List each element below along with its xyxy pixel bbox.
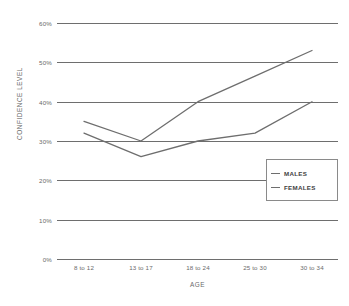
legend-item-males[interactable]: MALES [271, 166, 337, 180]
x-tick-label: 18 to 24 [168, 264, 228, 271]
x-axis-title: AGE [57, 281, 338, 288]
line-chart: 60%50%40%30%20%10%0% CONFIDENCE LEVEL 8 … [0, 0, 349, 306]
x-tick-label: 25 to 30 [225, 264, 285, 271]
y-tick-label: 60% [12, 20, 52, 27]
x-tick-label: 30 to 34 [282, 264, 342, 271]
y-tick-label: 20% [12, 177, 52, 184]
legend-swatch-females-icon [271, 187, 280, 188]
legend-swatch-males-icon [271, 173, 280, 174]
legend-label-females: FEMALES [284, 184, 316, 191]
series-line-males [84, 51, 312, 142]
y-tick-label: 10% [12, 216, 52, 223]
chart-series-layer [57, 23, 338, 259]
chart-legend[interactable]: MALES FEMALES [266, 159, 338, 201]
x-tick-label: 8 to 12 [54, 264, 114, 271]
x-tick-label: 13 to 17 [111, 264, 171, 271]
x-axis-tick-labels: 8 to 1213 to 1718 to 2425 to 3030 to 34 [57, 264, 338, 278]
gridline-0 [57, 259, 338, 260]
legend-label-males: MALES [284, 170, 307, 177]
y-tick-label: 0% [12, 256, 52, 263]
legend-item-females[interactable]: FEMALES [271, 180, 337, 194]
y-axis-title: CONFIDENCE LEVEL [16, 44, 23, 164]
series-line-females [84, 102, 312, 157]
